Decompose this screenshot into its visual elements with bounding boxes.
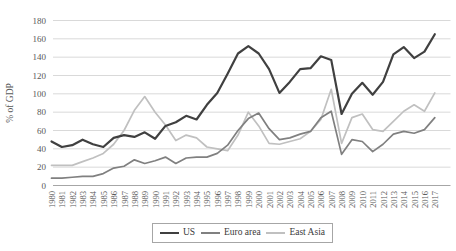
x-tick-label: 1993	[182, 191, 192, 208]
legend-label: US	[183, 228, 195, 238]
series-line-east-asia	[52, 89, 435, 165]
x-tick-label: 2003	[285, 191, 295, 208]
x-tick-label: 2004	[296, 190, 306, 208]
legend-line-sample	[266, 232, 285, 234]
x-tick-label: 2001	[265, 191, 275, 208]
legend-line-sample	[160, 232, 179, 234]
x-tick-label: 2006	[316, 191, 326, 208]
y-tick-label: 140	[33, 52, 47, 62]
x-tick-label: 1981	[57, 191, 67, 208]
x-tick-label: 1997	[223, 191, 233, 208]
x-tick-label: 1998	[233, 191, 243, 208]
x-tick-label: 2007	[327, 191, 337, 208]
legend-item-us: US	[160, 228, 195, 238]
y-tick-label: 180	[33, 16, 47, 26]
x-tick-label: 1983	[78, 191, 88, 208]
x-tick-label: 1988	[130, 191, 140, 208]
x-tick-label: 2008	[337, 191, 347, 208]
x-tick-label: 1991	[161, 191, 171, 208]
y-tick-label: 160	[33, 34, 47, 44]
x-tick-label: 1990	[151, 191, 161, 208]
y-tick-label: 0	[42, 181, 47, 191]
x-tick-label: 1984	[88, 190, 98, 208]
x-tick-label: 2013	[389, 191, 399, 208]
x-tick-label: 2011	[368, 191, 378, 208]
legend-label: Euro area	[224, 228, 261, 238]
x-tick-label: 2000	[254, 191, 264, 208]
x-tick-label: 1989	[140, 191, 150, 208]
y-tick-label: 80	[37, 107, 47, 117]
y-tick-label: 120	[33, 71, 47, 81]
x-tick-label: 1995	[202, 191, 212, 208]
legend-item-east-asia: East Asia	[266, 228, 325, 238]
x-tick-label: 1985	[99, 191, 109, 208]
x-tick-label: 2014	[399, 190, 409, 208]
chart-plot-area: 0204060801001201401601801980198119821983…	[0, 0, 456, 251]
chart-legend: USEuro areaEast Asia	[152, 223, 333, 243]
x-tick-label: 1996	[213, 191, 223, 208]
legend-item-euro-area: Euro area	[201, 228, 261, 238]
x-tick-label: 1987	[120, 191, 130, 208]
y-axis-title: % of GDP	[5, 83, 15, 123]
x-tick-label: 1999	[244, 191, 254, 208]
x-tick-label: 2012	[379, 191, 389, 208]
x-tick-label: 2002	[275, 191, 285, 208]
x-tick-label: 2005	[306, 191, 316, 208]
x-tick-label: 2017	[430, 191, 440, 208]
y-tick-label: 20	[37, 162, 47, 172]
y-tick-label: 100	[33, 89, 47, 99]
x-tick-label: 2010	[358, 191, 368, 208]
series-line-euro-area	[52, 111, 435, 178]
x-tick-label: 1982	[68, 191, 78, 208]
x-tick-label: 1994	[192, 190, 202, 208]
x-tick-label: 1980	[47, 191, 57, 208]
x-tick-label: 2016	[420, 191, 430, 208]
x-tick-label: 1992	[171, 191, 181, 208]
x-tick-label: 1986	[109, 191, 119, 208]
legend-label: East Asia	[289, 228, 325, 238]
line-chart: 0204060801001201401601801980198119821983…	[0, 0, 456, 251]
x-tick-label: 2015	[410, 191, 420, 208]
x-tick-label: 2009	[347, 191, 357, 208]
legend-line-sample	[201, 232, 220, 234]
y-tick-label: 40	[37, 144, 47, 154]
y-tick-label: 60	[37, 126, 47, 136]
